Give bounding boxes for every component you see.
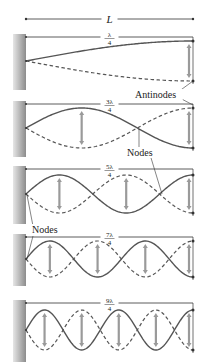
wavelength-fraction-numerator: 3λ bbox=[106, 98, 114, 106]
endpoint-dot bbox=[25, 36, 27, 38]
arrowhead-up bbox=[124, 178, 129, 182]
arrowhead-down bbox=[124, 206, 129, 210]
arrowhead-up bbox=[187, 111, 192, 115]
panel-n1: λ4 bbox=[13, 31, 195, 91]
free-end-dot bbox=[192, 107, 195, 110]
wave-dashed bbox=[26, 61, 193, 81]
panel-n5: 5λ4 bbox=[13, 163, 195, 225]
length-dimension: L bbox=[25, 13, 194, 25]
arrowhead-down bbox=[187, 206, 192, 210]
free-end-dot bbox=[192, 276, 195, 279]
wavelength-fraction-numerator: 5λ bbox=[106, 163, 114, 171]
length-endpoint-left bbox=[25, 18, 27, 20]
arrowhead-down bbox=[143, 270, 148, 274]
arrowhead-up bbox=[95, 244, 100, 248]
arrowhead-down bbox=[47, 270, 52, 274]
free-end-dot bbox=[192, 212, 195, 215]
arrowhead-up bbox=[187, 44, 192, 48]
free-end-dot bbox=[192, 147, 195, 150]
arrowhead-up bbox=[47, 244, 52, 248]
fixed-end-dot bbox=[25, 127, 27, 129]
endpoint-dot bbox=[25, 103, 27, 105]
wavelength-fraction-denominator: 4 bbox=[108, 39, 112, 47]
panel-n3: 3λ4 bbox=[13, 98, 195, 158]
arrowhead-up bbox=[153, 313, 158, 317]
wave-solid bbox=[26, 108, 193, 148]
leader-line bbox=[27, 236, 33, 259]
standing-wave-diagram: L λ43λ45λ47λ49λ4 AntinodesNodesNodes bbox=[0, 0, 206, 363]
arrowhead-down bbox=[57, 206, 62, 210]
free-end-dot bbox=[192, 174, 195, 177]
arrowhead-up bbox=[79, 313, 84, 317]
fixed-wall bbox=[13, 166, 26, 224]
length-endpoint-right bbox=[192, 18, 194, 20]
annotation-label: Nodes bbox=[32, 224, 58, 235]
wavelength-fraction-numerator: 7λ bbox=[106, 231, 114, 239]
fixed-end-dot bbox=[25, 258, 27, 260]
arrowhead-down bbox=[79, 343, 84, 347]
arrowhead-down bbox=[153, 343, 158, 347]
wave-solid bbox=[26, 175, 193, 213]
wavelength-fraction-denominator: 4 bbox=[108, 171, 112, 179]
wavelength-fraction-numerator: 9λ bbox=[106, 297, 114, 305]
panel-n7: 7λ4 bbox=[13, 231, 195, 287]
wavelength-fraction-numerator: λ bbox=[108, 31, 112, 39]
fixed-end-dot bbox=[25, 193, 27, 195]
arrowhead-up bbox=[187, 244, 192, 248]
annotation-antinodes: Antinodes bbox=[134, 81, 193, 105]
free-end-dot bbox=[192, 240, 195, 243]
fixed-wall bbox=[13, 101, 26, 157]
arrowhead-up bbox=[79, 111, 84, 115]
arrowhead-up bbox=[57, 178, 62, 182]
arrowhead-up bbox=[42, 313, 47, 317]
annotation-nodes-lower: Nodes bbox=[27, 195, 59, 259]
arrowhead-down bbox=[187, 74, 192, 78]
endpoint-dot bbox=[25, 236, 27, 238]
arrowhead-down bbox=[187, 343, 192, 347]
endpoint-dot bbox=[25, 302, 27, 304]
arrowhead-up bbox=[116, 313, 121, 317]
arrowhead-down bbox=[187, 141, 192, 145]
free-end-dot bbox=[192, 40, 195, 43]
arrowhead-down bbox=[79, 141, 84, 145]
endpoint-dot bbox=[25, 168, 27, 170]
arrowhead-up bbox=[143, 244, 148, 248]
arrowhead-down bbox=[187, 270, 192, 274]
fixed-end-dot bbox=[25, 329, 27, 331]
harmonic-panels: λ43λ45λ47λ49λ4 bbox=[13, 31, 195, 363]
panel-n9: 9λ4 bbox=[13, 297, 195, 363]
free-end-dot bbox=[192, 349, 195, 352]
fixed-wall bbox=[13, 34, 26, 90]
fixed-end-dot bbox=[25, 60, 27, 62]
arrowhead-up bbox=[187, 178, 192, 182]
arrowhead-up bbox=[187, 313, 192, 317]
fixed-wall bbox=[13, 300, 26, 362]
annotation-label: Nodes bbox=[127, 147, 153, 158]
length-label: L bbox=[105, 13, 112, 25]
free-end-dot bbox=[192, 309, 195, 312]
arrowhead-down bbox=[95, 270, 100, 274]
fixed-wall bbox=[13, 234, 26, 286]
annotation-label: Antinodes bbox=[135, 89, 176, 100]
arrowhead-down bbox=[42, 343, 47, 347]
wavelength-fraction-denominator: 4 bbox=[108, 305, 112, 313]
wave-solid bbox=[26, 310, 193, 350]
arrowhead-down bbox=[116, 343, 121, 347]
